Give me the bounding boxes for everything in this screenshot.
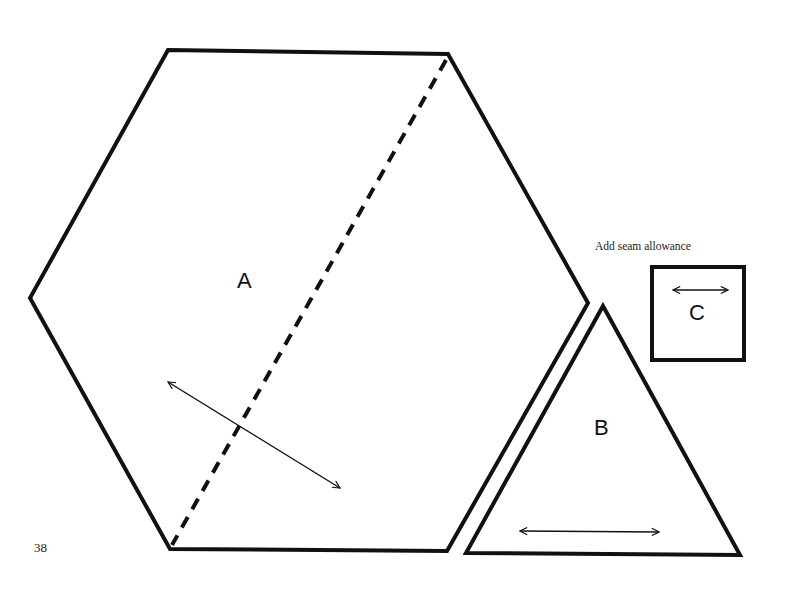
template-sheet — [0, 0, 799, 591]
page-number: 38 — [34, 540, 47, 556]
piece-label-b: B — [594, 417, 609, 439]
piece-label-c: C — [689, 302, 705, 324]
hexagon-cut-line — [172, 60, 446, 545]
grain-arrow-b-icon — [520, 531, 659, 532]
piece-label-a: A — [237, 270, 252, 292]
seam-allowance-note: Add seam allowance — [595, 240, 691, 252]
